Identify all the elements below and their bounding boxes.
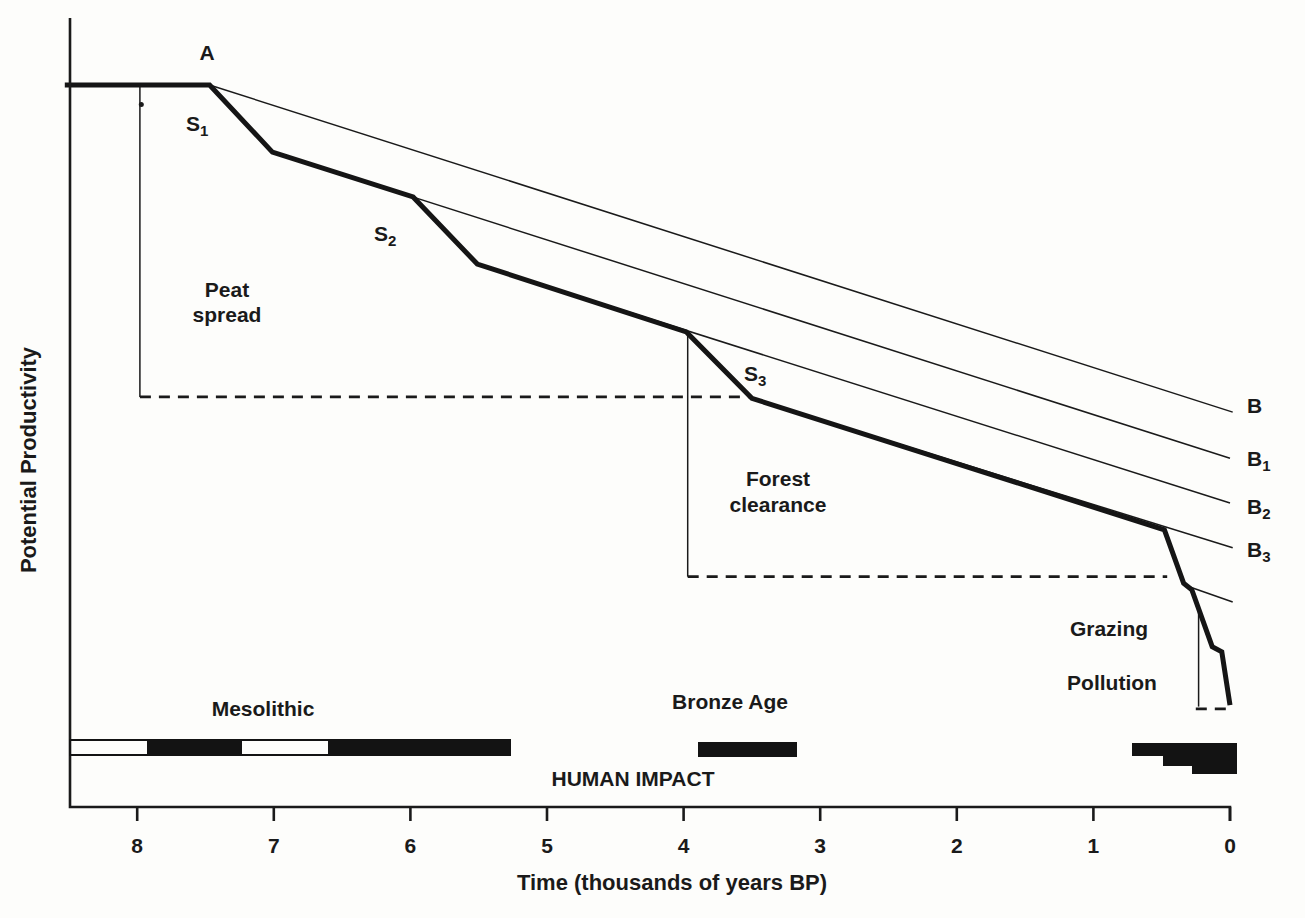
b1-label: B1: [1247, 447, 1271, 474]
peat-start-dot: [139, 102, 144, 107]
x-tick-label-8: 8: [131, 834, 143, 857]
line-B: [210, 85, 1233, 412]
recent-impact-step-3: [1192, 743, 1237, 774]
x-tick-label-3: 3: [814, 834, 826, 857]
y-axis-title: Potential Productivity: [16, 346, 41, 573]
human-impact-label: HUMAN IMPACT: [552, 767, 715, 790]
x-axis-title: Time (thousands of years BP): [517, 870, 827, 895]
s2-label: S2: [374, 222, 396, 249]
mesolithic-bar-fill-2: [328, 740, 510, 755]
x-tick-label-7: 7: [268, 834, 280, 857]
actual-potential-productivity: [65, 85, 1230, 705]
x-tick-label-5: 5: [541, 834, 553, 857]
x-tick-label-6: 6: [405, 834, 417, 857]
b3-label: B3: [1247, 538, 1271, 565]
b-label: B: [1247, 394, 1262, 417]
forest-clearance-label: Forestclearance: [730, 467, 827, 516]
chart-figure: 876543210Time (thousands of years BP)Pot…: [0, 0, 1305, 918]
b2-label: B2: [1247, 495, 1271, 522]
s3-label: S3: [744, 362, 766, 389]
mesolithic-bar-fill-1: [147, 740, 242, 755]
peat-spread-label: Peatspread: [193, 278, 262, 326]
x-tick-label-1: 1: [1088, 834, 1100, 857]
x-tick-label-0: 0: [1224, 834, 1236, 857]
x-tick-label-2: 2: [951, 834, 963, 857]
grazing-label: Grazing: [1070, 617, 1148, 640]
potential-productivity-chart: 876543210Time (thousands of years BP)Pot…: [0, 0, 1305, 918]
bronze-age-label: Bronze Age: [672, 690, 788, 713]
mesolithic-label: Mesolithic: [212, 697, 315, 720]
s1-label: S1: [186, 112, 208, 139]
pollution-label: Pollution: [1067, 671, 1157, 694]
x-tick-label-4: 4: [678, 834, 690, 857]
point-a-label: A: [199, 41, 214, 64]
bronze-age-bar: [698, 742, 797, 757]
